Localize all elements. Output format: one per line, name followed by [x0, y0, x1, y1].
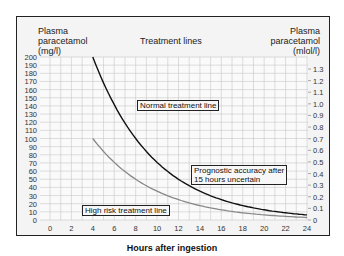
y2-tick-label: 0.9	[313, 111, 323, 120]
y2-tick-label: 1.3	[313, 65, 323, 74]
y-tick-label: 80	[29, 151, 37, 160]
y2-tick-label: 1.1	[313, 88, 323, 97]
x-tick-label: 6	[112, 224, 116, 233]
y-tick-label: 0	[33, 216, 37, 225]
x-tick-label: 18	[239, 224, 247, 233]
y2-tick-label: 1.2	[313, 77, 323, 86]
y-tick-label: 90	[29, 143, 37, 152]
y-tick-label: 20	[29, 200, 37, 209]
y-right-title-line2: paracetamol	[270, 36, 320, 46]
y-tick-label: 200	[24, 53, 37, 62]
y2-tick-label: 0.4	[313, 170, 323, 179]
y2-tick-label: 0	[313, 216, 317, 225]
y-tick-label: 190	[24, 61, 37, 70]
y-tick-label: 110	[25, 126, 37, 135]
y-tick-label: 130	[24, 110, 37, 119]
y2-tick-label: 0.1	[313, 204, 323, 213]
y-tick-label: 10	[29, 208, 37, 217]
prognostic-note-line1: Prognostic accuracy after	[194, 166, 284, 175]
y-left-title: Plasma paracetamol (mg/l)	[38, 26, 88, 56]
x-tick-label: 4	[91, 224, 95, 233]
y-tick-label: 120	[24, 118, 37, 127]
y-tick-label: 150	[24, 94, 37, 103]
normal-line-label: Normal treatment line	[137, 100, 219, 111]
y-left-title-line2: paracetamol	[38, 36, 88, 46]
x-tick-label: 14	[196, 224, 204, 233]
y-tick-label: 140	[24, 102, 37, 111]
x-axis-title: Hours after ingestion	[0, 243, 344, 253]
x-tick-label: 8	[134, 224, 138, 233]
y2-tick-label: 0.8	[313, 123, 323, 132]
y-tick-label: 100	[24, 135, 37, 144]
y-tick-label: 40	[29, 183, 37, 192]
y2-tick-label: 1.0	[313, 100, 323, 109]
x-tick-label: 2	[69, 224, 73, 233]
y2-tick-label: 0.2	[313, 193, 323, 202]
y-tick-label: 170	[24, 77, 37, 86]
x-tick-label: 12	[174, 224, 182, 233]
y2-tick-label: 0.3	[313, 181, 323, 190]
y-tick-label: 30	[29, 192, 37, 201]
y-right-title-line3: (mlol/l)	[270, 46, 320, 56]
x-tick-label: 22	[281, 224, 289, 233]
y2-tick-label: 0.7	[313, 135, 323, 144]
y-tick-label: 50	[29, 175, 37, 184]
x-tick-label: 0	[48, 224, 52, 233]
x-tick-label: 24	[303, 224, 311, 233]
prognostic-note-line2: 15 hours uncertain	[194, 175, 284, 184]
y-tick-label: 180	[24, 69, 37, 78]
x-tick-label: 10	[153, 224, 161, 233]
y-left-title-line3: (mg/l)	[38, 46, 88, 56]
y-right-title: Plasma paracetamol (mlol/l)	[270, 26, 320, 56]
y-right-title-line1: Plasma	[270, 26, 320, 36]
y-left-title-line1: Plasma	[38, 26, 88, 36]
high-risk-line-label: High risk treatment line	[82, 205, 170, 216]
y2-tick-label: 0.5	[313, 158, 323, 167]
y2-tick-label: 0.6	[313, 146, 323, 155]
prognostic-note: Prognostic accuracy after 15 hours uncer…	[191, 165, 287, 185]
x-tick-label: 20	[260, 224, 268, 233]
y-tick-label: 160	[24, 86, 37, 95]
x-tick-label: 16	[217, 224, 225, 233]
y-tick-label: 60	[29, 167, 37, 176]
y-tick-label: 70	[29, 159, 37, 168]
chart-title: Treatment lines	[140, 37, 202, 46]
